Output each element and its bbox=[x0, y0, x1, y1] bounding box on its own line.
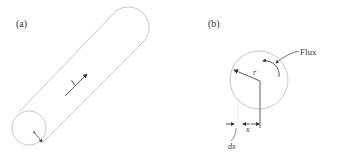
cross-section-circle bbox=[230, 51, 288, 109]
diagram-canvas: (a) I r (b) r Flux bbox=[0, 0, 338, 156]
dx-label: dx bbox=[228, 142, 236, 151]
flux-label: Flux bbox=[300, 47, 317, 57]
radius-label-a: r bbox=[33, 128, 36, 136]
flux-arrow-icon bbox=[263, 61, 279, 77]
panel-b: (b) r Flux x dx bbox=[208, 18, 317, 151]
current-label: I bbox=[68, 78, 77, 87]
cylinder bbox=[12, 7, 149, 145]
x-label: x bbox=[245, 125, 250, 134]
panel-a-label: (a) bbox=[16, 18, 27, 30]
panel-b-label: (b) bbox=[208, 18, 220, 30]
panel-a: (a) I r bbox=[12, 7, 149, 145]
flux-leader-icon bbox=[276, 51, 299, 63]
radius-label-b: r bbox=[253, 68, 257, 77]
dx-leader-icon bbox=[231, 128, 236, 141]
